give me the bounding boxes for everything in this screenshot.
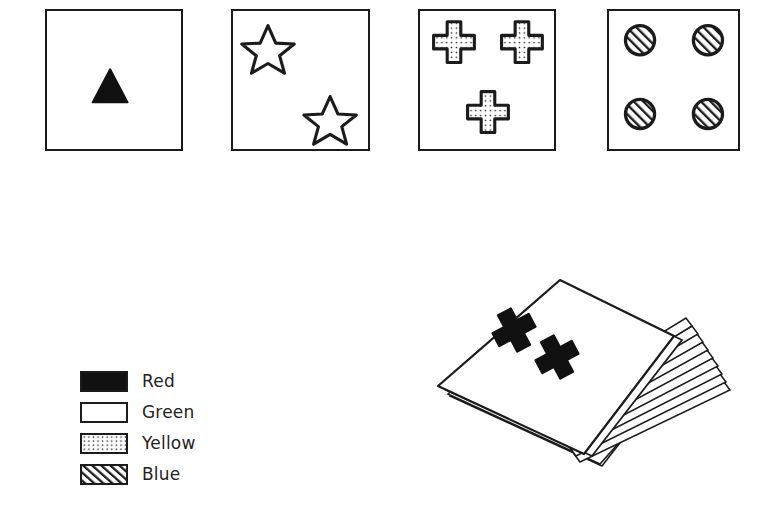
card-4[interactable]: [607, 9, 740, 151]
legend-entry-blue: Blue: [80, 459, 196, 490]
card-1-symbols: [47, 11, 181, 149]
card-3-symbols: [420, 11, 554, 149]
circle-symbol: [625, 26, 654, 55]
triangle-symbol: [93, 69, 128, 102]
legend-swatch-green: [80, 402, 128, 423]
legend-entry-green: Green: [80, 397, 196, 428]
hatch-pattern-icon: [82, 466, 126, 483]
circle-symbol: [625, 99, 654, 128]
legend-entry-yellow: Yellow: [80, 428, 196, 459]
color-legend: Red Green Yellow: [80, 366, 196, 490]
legend-swatch-blue: [80, 464, 128, 485]
legend-swatch-yellow: [80, 433, 128, 454]
cross-symbol: [502, 22, 543, 63]
card-deck-illustration: [424, 278, 744, 483]
star-symbol: [242, 26, 294, 74]
legend-label-red: Red: [142, 373, 175, 390]
legend-label-blue: Blue: [142, 466, 180, 483]
card-3[interactable]: [418, 9, 556, 151]
legend-label-yellow: Yellow: [142, 435, 196, 452]
legend-label-green: Green: [142, 404, 194, 421]
card-2[interactable]: [231, 9, 370, 151]
card-4-symbols: [609, 11, 738, 149]
card-2-symbols: [233, 11, 368, 149]
cross-symbol: [434, 22, 475, 63]
cross-symbol: [468, 92, 509, 133]
circle-symbol: [693, 26, 722, 55]
star-symbol: [304, 97, 356, 145]
card-deck[interactable]: [424, 278, 744, 483]
circle-symbol: [693, 99, 722, 128]
legend-swatch-red: [80, 371, 128, 392]
figure-canvas: Red Green Yellow: [0, 0, 773, 511]
dotted-pattern-icon: [82, 435, 126, 452]
card-1[interactable]: [45, 9, 183, 151]
legend-entry-red: Red: [80, 366, 196, 397]
